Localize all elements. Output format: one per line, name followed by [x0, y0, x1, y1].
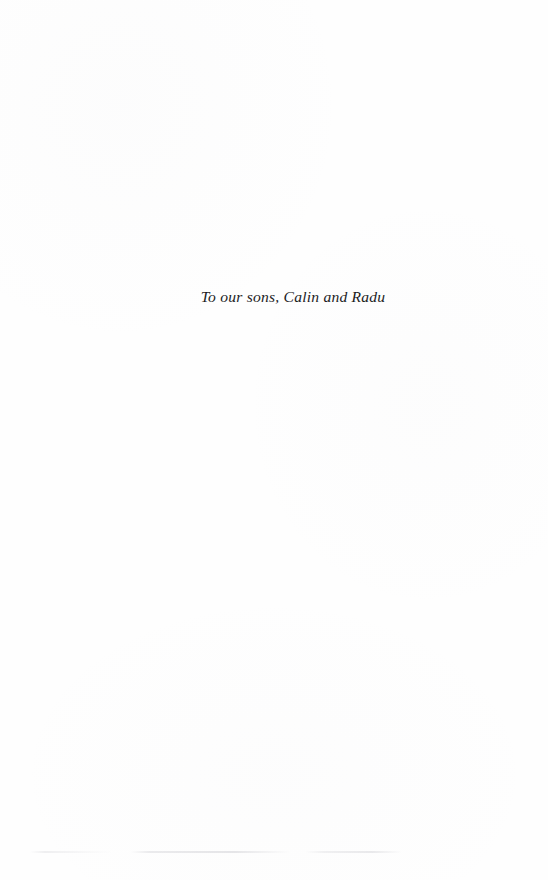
dedication-block: To our sons, Calin and Radu: [0, 286, 548, 307]
book-page: To our sons, Calin and Radu: [0, 0, 548, 880]
scan-edge-artifact: [30, 851, 402, 853]
dedication-text: To our sons, Calin and Radu: [201, 286, 386, 307]
paper-grain-texture: [0, 0, 548, 880]
